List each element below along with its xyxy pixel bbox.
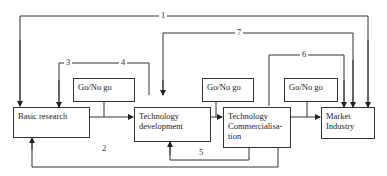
node-label-line1: Technology [228, 111, 290, 121]
node-label-line1: Market [326, 111, 374, 121]
gate-label: Go/No go [78, 82, 112, 92]
node-label-line2: Industry [326, 121, 374, 131]
gate-go-no-go-3: Go/No go [284, 78, 338, 102]
link-label-3: 3 [64, 58, 72, 67]
node-label-line2: Commercialisa- [228, 121, 290, 131]
link-label-4: 4 [119, 58, 127, 67]
node-label-line2: development [139, 121, 210, 131]
node-label: Basic research [18, 111, 67, 121]
link-label-7: 7 [235, 28, 243, 37]
gate-go-no-go-2: Go/No go [202, 78, 254, 102]
node-basic-research: Basic research [13, 107, 90, 138]
node-label-line3: tion [228, 131, 290, 141]
link-label-2: 2 [100, 144, 108, 153]
node-market-industry: Market Industry [321, 107, 375, 139]
gate-label: Go/No go [207, 82, 241, 92]
link-label-5: 5 [197, 148, 205, 157]
innovation-process-diagram: 1 7 3 4 6 2 5 Go/No go Go/No go Go/No go… [0, 0, 387, 176]
node-technology-development: Technology development [134, 107, 211, 142]
gate-go-no-go-1: Go/No go [73, 78, 135, 102]
gate-label: Go/No go [289, 82, 323, 92]
node-technology-commercialisation: Technology Commercialisa- tion [223, 107, 291, 148]
link-label-1: 1 [159, 11, 167, 20]
link-label-6: 6 [300, 50, 308, 59]
node-label-line1: Technology [139, 111, 210, 121]
